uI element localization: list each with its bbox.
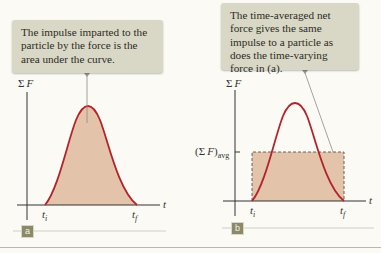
panel-badge-b: b: [231, 222, 244, 235]
callout-average-force: The time-averaged net force gives the sa…: [221, 3, 359, 70]
tick-label-ti: ti: [42, 208, 47, 223]
panel-b-graph: [222, 70, 374, 228]
callout-text: The impulse imparted to the particle by …: [21, 26, 147, 65]
panel-badge-a: a: [21, 225, 34, 238]
y-axis-label: Σ F: [18, 77, 33, 89]
average-force-label: (Σ F)avg: [195, 145, 229, 160]
callout-leader-line: [305, 73, 333, 152]
callout-text: The time-averaged net force gives the sa…: [230, 9, 333, 74]
tick-label-ti: ti: [250, 204, 255, 219]
tick-label-tf: tf: [340, 204, 345, 219]
tick-label-tf: tf: [132, 208, 137, 223]
x-axis-label: t: [369, 194, 372, 206]
impulse-area: [45, 106, 137, 205]
average-force-area: [252, 152, 344, 201]
y-axis-label: Σ F: [226, 77, 241, 89]
panel-a-graph: [13, 73, 166, 231]
x-axis-label: t: [163, 198, 166, 210]
callout-impulse-area: The impulse imparted to the particle by …: [12, 20, 163, 73]
